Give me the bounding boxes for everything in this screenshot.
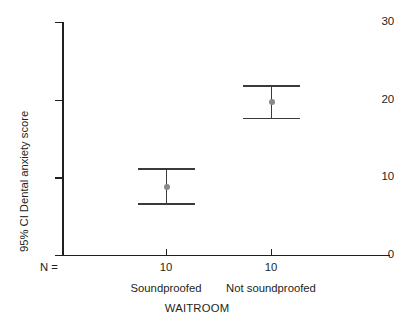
y-tick-mark-30 (55, 22, 62, 23)
x-axis-title: WAITROOM (0, 302, 394, 314)
n-value-soundproofed: 10 (160, 261, 173, 273)
x-category-label-not-soundproofed: Not soundproofed (226, 282, 316, 294)
x-tick-mark-soundproofed (166, 249, 167, 255)
mean-marker (164, 184, 170, 190)
error-bar-chart: 95% CI Dental anxiety score 30 20 10 0 N… (0, 0, 394, 326)
y-tick-label-30: 30 (348, 15, 394, 27)
x-tick-mark-not-soundproofed (271, 249, 272, 255)
n-prefix-label: N = (40, 261, 58, 273)
y-tick-label-0: 0 (348, 248, 394, 260)
y-axis-title: 95% CI Dental anxiety score (18, 18, 36, 252)
y-tick-mark-10 (55, 177, 62, 178)
y-tick-mark-0 (55, 255, 62, 256)
y-tick-mark-20 (55, 100, 62, 101)
x-category-label-soundproofed: Soundproofed (131, 282, 202, 294)
mean-marker (269, 99, 275, 105)
y-axis-line (62, 22, 64, 256)
y-tick-label-10: 10 (348, 170, 394, 182)
n-value-not-soundproofed: 10 (265, 261, 278, 273)
x-axis-line (62, 255, 390, 257)
y-tick-label-20: 20 (348, 93, 394, 105)
